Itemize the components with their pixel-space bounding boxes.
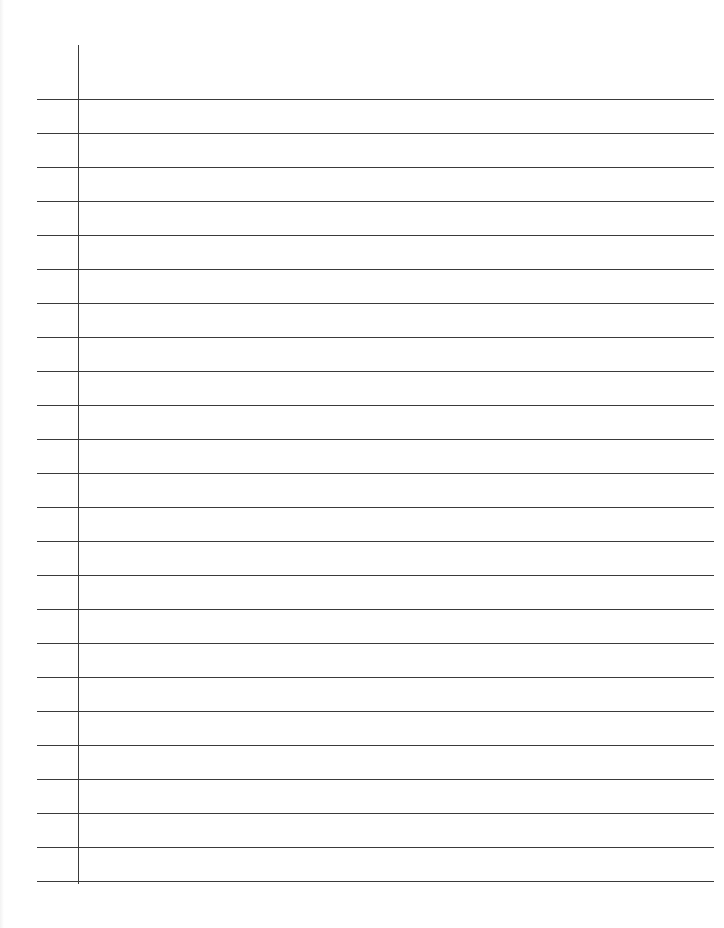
ruled-line bbox=[37, 643, 714, 644]
ruled-line bbox=[37, 99, 714, 100]
ruled-line bbox=[37, 575, 714, 576]
ruled-line bbox=[37, 541, 714, 542]
page-edge-shadow bbox=[0, 0, 4, 928]
ruled-line bbox=[37, 745, 714, 746]
margin-line bbox=[78, 45, 79, 884]
ruled-line bbox=[37, 235, 714, 236]
ruled-line bbox=[37, 337, 714, 338]
ruled-line bbox=[37, 405, 714, 406]
ruled-line bbox=[37, 473, 714, 474]
ruled-line bbox=[37, 881, 714, 882]
ruled-line bbox=[37, 133, 714, 134]
ruled-line bbox=[37, 201, 714, 202]
ruled-line bbox=[37, 813, 714, 814]
ruled-line bbox=[37, 609, 714, 610]
ruled-line bbox=[37, 677, 714, 678]
ruled-line bbox=[37, 507, 714, 508]
lined-paper-page bbox=[0, 0, 724, 928]
ruled-line bbox=[37, 167, 714, 168]
ruled-line bbox=[37, 303, 714, 304]
ruled-line bbox=[37, 269, 714, 270]
ruled-line bbox=[37, 711, 714, 712]
ruled-line bbox=[37, 779, 714, 780]
ruled-line bbox=[37, 439, 714, 440]
ruled-line bbox=[37, 847, 714, 848]
ruled-line bbox=[37, 371, 714, 372]
